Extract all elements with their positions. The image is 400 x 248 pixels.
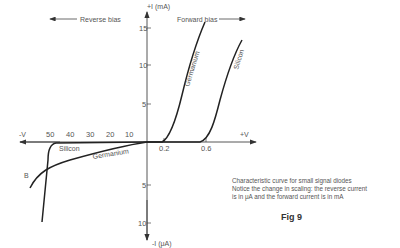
germanium-reverse-label: Germanium [92, 147, 129, 160]
svg-text:10: 10 [125, 130, 133, 139]
x-ticks-negative: 50 40 30 20 10 [46, 130, 133, 139]
svg-text:20: 20 [106, 130, 114, 139]
svg-text:50: 50 [46, 130, 54, 139]
figure-caption: Characteristic curve for small signal di… [232, 177, 400, 201]
svg-text:10: 10 [138, 219, 146, 228]
x-axis-pos-label: +V [240, 131, 249, 138]
svg-text:30: 30 [86, 130, 94, 139]
germanium-forward-curve [147, 22, 205, 142]
y-axis-pos-label: +I (mA) [147, 3, 170, 11]
caption-line-2: Notice the change in scaling: the revers… [232, 185, 400, 193]
y-ticks-negative: 5 10 [138, 181, 151, 228]
diode-characteristic-diagram: Reverse bias Forward bias +I (mA) -I (μA… [0, 0, 400, 248]
breakdown-label: B [24, 172, 29, 179]
silicon-reverse-label: Silicon [59, 145, 80, 152]
svg-text:0.2: 0.2 [159, 144, 169, 153]
silicon-forward-label: Silicon [232, 48, 245, 70]
svg-text:5: 5 [142, 181, 146, 190]
svg-text:40: 40 [66, 130, 74, 139]
germanium-forward-label: Germanium [183, 50, 200, 87]
svg-text:5: 5 [142, 100, 146, 109]
svg-text:0.6: 0.6 [201, 144, 211, 153]
figure-label: Fig 9 [281, 212, 302, 222]
y-ticks-positive: 15 10 5 [139, 24, 151, 109]
reverse-bias-label: Reverse bias [80, 16, 121, 23]
caption-line-1: Characteristic curve for small signal di… [232, 177, 400, 185]
y-axis-neg-label: -I (μA) [152, 240, 172, 248]
svg-text:15: 15 [139, 24, 147, 33]
x-axis-neg-label: -V [19, 131, 26, 138]
forward-bias-label: Forward bias [177, 16, 218, 23]
svg-text:10: 10 [139, 61, 147, 70]
caption-line-3: is in μA and the forward current is in m… [232, 193, 400, 201]
